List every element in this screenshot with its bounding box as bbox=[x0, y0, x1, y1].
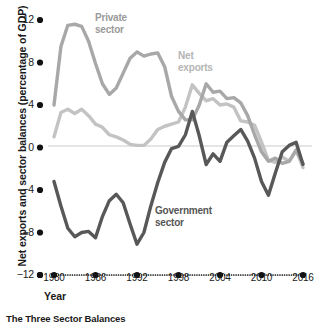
series-label-netexports-line1: Net bbox=[178, 50, 213, 62]
y-tick-label-0: 0 bbox=[8, 141, 34, 153]
series-label-private-sector: Private sector bbox=[95, 12, 127, 35]
x-tick-label-2010: 2010 bbox=[242, 272, 282, 283]
series-label-net-exports: Net exports bbox=[178, 50, 213, 73]
series-label-government-sector: Government sector bbox=[155, 205, 212, 228]
x-tick-label-1992: 1992 bbox=[117, 272, 157, 283]
series-label-government-line2: sector bbox=[155, 217, 212, 229]
y-tick-label-8: 8 bbox=[8, 56, 34, 68]
x-axis-label: Year bbox=[44, 290, 66, 302]
chart-figure: Net exports and sector balances (percent… bbox=[0, 0, 317, 331]
y-tick-label-4: 4 bbox=[8, 98, 34, 110]
y-tick-label-neg8: −8 bbox=[8, 226, 34, 238]
y-tick-label-12: 12 bbox=[8, 13, 34, 25]
y-axis-tick-dots bbox=[37, 17, 43, 278]
x-tick-label-1980: 1980 bbox=[34, 272, 74, 283]
series-label-government-line1: Government bbox=[155, 205, 212, 217]
y-tick-label-neg12: −12 bbox=[8, 268, 34, 280]
y-tick-label-neg4: −4 bbox=[8, 183, 34, 195]
series-label-netexports-line2: exports bbox=[178, 62, 213, 74]
x-tick-label-2016: 2016 bbox=[283, 272, 317, 283]
series-label-private-line1: Private bbox=[95, 12, 127, 24]
figure-caption: The Three Sector Balances bbox=[6, 313, 125, 324]
x-tick-label-1986: 1986 bbox=[76, 272, 116, 283]
series-line-private-sector bbox=[54, 24, 303, 163]
x-tick-label-2004: 2004 bbox=[200, 272, 240, 283]
x-tick-label-1998: 1998 bbox=[159, 272, 199, 283]
series-label-private-line2: sector bbox=[95, 24, 127, 36]
